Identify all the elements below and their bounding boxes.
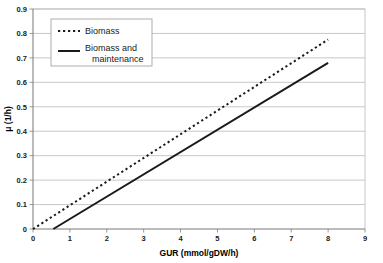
y-tick-label: 0.2 — [17, 176, 27, 185]
x-tick-label: 0 — [31, 234, 35, 243]
legend-label-line1: Biomass and — [85, 43, 137, 53]
x-axis-title: GUR (mmol/gDW/h) — [160, 248, 239, 258]
y-tick-label: 0.7 — [17, 54, 27, 63]
y-tick-label: 0.8 — [17, 29, 27, 38]
y-tick-label: 0.6 — [17, 78, 27, 87]
y-tick-label: 0 — [23, 225, 27, 234]
chart-legend: Biomass Biomass and maintenance — [51, 19, 152, 66]
x-tick-label: 4 — [178, 234, 183, 243]
x-tick-label: 6 — [252, 234, 256, 243]
x-tick-label: 1 — [68, 234, 72, 243]
x-tick-label: 7 — [289, 234, 293, 243]
y-tick-label: 0.3 — [17, 151, 27, 160]
x-tick-labels: 0 1 2 3 4 5 6 7 8 9 — [31, 234, 367, 243]
chart-figure: 0.9 0.8 0.7 0.6 0.5 0.4 0.3 0.2 0.1 0 0 … — [0, 0, 383, 263]
y-tick-label: 0.1 — [17, 200, 27, 209]
x-tick-label: 3 — [142, 234, 146, 243]
legend-label-biomass-and-maintenance: Biomass and maintenance — [85, 43, 144, 64]
x-tick-label: 9 — [363, 234, 367, 243]
x-tick-label: 2 — [105, 234, 109, 243]
y-tick-labels: 0.9 0.8 0.7 0.6 0.5 0.4 0.3 0.2 0.1 0 — [17, 5, 28, 234]
x-tick-label: 8 — [326, 234, 330, 243]
line-chart: 0.9 0.8 0.7 0.6 0.5 0.4 0.3 0.2 0.1 0 0 … — [0, 0, 383, 263]
y-tick-label: 0.4 — [17, 127, 28, 136]
y-axis-title: μ (1/h) — [3, 106, 13, 132]
y-tickmarks — [30, 9, 34, 229]
legend-label-biomass: Biomass — [85, 26, 120, 36]
legend-label-line2: maintenance — [92, 54, 144, 64]
y-tick-label: 0.5 — [17, 103, 27, 112]
y-tick-label: 0.9 — [17, 5, 27, 14]
x-tickmarks — [33, 229, 365, 233]
x-tick-label: 5 — [215, 234, 219, 243]
